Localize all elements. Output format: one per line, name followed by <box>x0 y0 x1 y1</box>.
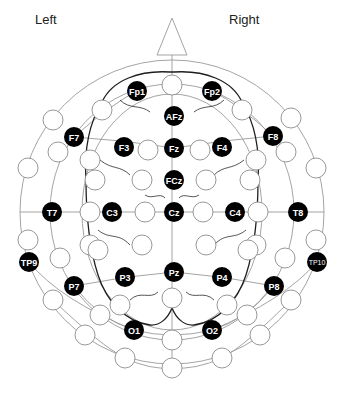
open-electrode-site <box>212 348 232 368</box>
electrode-label: F4 <box>217 143 228 153</box>
electrode-label: Pz <box>169 268 180 278</box>
electrode-f3: F3 <box>114 137 134 157</box>
electrode-label: T7 <box>47 208 58 218</box>
electrode-f4: F4 <box>212 137 232 157</box>
electrode-label: TP10 <box>309 259 326 266</box>
electrode-label: T8 <box>293 208 304 218</box>
electrode-o2: O2 <box>202 320 222 340</box>
electrode-label: F3 <box>119 143 130 153</box>
open-electrode-site <box>50 248 70 268</box>
open-electrode-site <box>162 288 182 308</box>
electrode-t8: T8 <box>288 202 308 222</box>
electrode-tp9: TP9 <box>19 252 39 272</box>
open-electrode-site <box>132 235 152 255</box>
electrode-p7: P7 <box>64 276 84 296</box>
open-electrode-site <box>18 230 38 250</box>
open-electrode-site <box>110 295 130 315</box>
open-electrode-site <box>281 290 301 310</box>
open-electrode-site <box>18 158 38 178</box>
open-electrode-site <box>240 170 260 190</box>
electrode-cz: Cz <box>164 202 184 222</box>
open-electrode-site <box>232 100 252 120</box>
electrode-label: O2 <box>206 326 218 336</box>
open-electrode-site <box>80 150 100 170</box>
open-electrode-site <box>80 202 100 222</box>
electrode-o1: O1 <box>124 320 144 340</box>
electrode-label: TP9 <box>21 258 38 268</box>
open-electrode-site <box>306 158 326 178</box>
electrode-label: C3 <box>106 208 118 218</box>
open-electrode-site <box>306 230 326 250</box>
open-electrode-site <box>196 235 216 255</box>
open-electrode-site <box>250 325 270 345</box>
open-electrode-site <box>85 170 105 190</box>
electrode-fp1: Fp1 <box>127 81 147 101</box>
electrode-label: P7 <box>68 282 79 292</box>
electrode-t7: T7 <box>42 202 62 222</box>
electrode-c4: C4 <box>225 202 245 222</box>
open-electrode-site <box>276 142 296 162</box>
open-electrode-site <box>238 240 258 260</box>
electrode-pz: Pz <box>164 262 184 282</box>
open-electrode-site <box>217 295 237 315</box>
electrode-fcz: FCz <box>164 170 184 190</box>
open-electrode-site <box>162 75 182 95</box>
open-electrode-site <box>275 248 295 268</box>
electrode-p4: P4 <box>212 267 232 287</box>
electrode-label: Fz <box>169 144 179 154</box>
electrode-label: Cz <box>169 208 180 218</box>
open-electrode-site <box>43 110 63 130</box>
electrode-label: Fp2 <box>204 87 220 97</box>
open-electrode-site <box>237 305 257 325</box>
electrode-label: C4 <box>229 208 241 218</box>
open-electrode-site <box>92 100 112 120</box>
electrode-f7: F7 <box>64 127 84 147</box>
open-electrode-site <box>75 325 95 345</box>
electrode-label: O1 <box>128 326 140 336</box>
electrode-label: AFz <box>166 112 183 122</box>
open-electrode-site <box>190 140 210 160</box>
electrode-tp10: TP10 <box>307 252 327 272</box>
electrode-label: FCz <box>166 176 183 186</box>
electrode-p3: P3 <box>115 267 135 287</box>
open-electrode-site <box>132 170 152 190</box>
electrode-label: P3 <box>119 273 130 283</box>
electrode-fz: Fz <box>164 138 184 158</box>
open-electrode-site <box>196 170 216 190</box>
open-electrode-site <box>135 202 155 222</box>
electrode-label: F8 <box>268 132 279 142</box>
open-electrode-site <box>248 202 268 222</box>
open-electrode-site <box>138 140 158 160</box>
open-electrode-site <box>115 348 135 368</box>
open-electrode-site <box>246 150 266 170</box>
open-electrode-site <box>162 330 182 350</box>
electrode-label: Fp1 <box>129 87 145 97</box>
electrode-label: F7 <box>69 133 80 143</box>
open-electrode-site <box>193 202 213 222</box>
eeg-electrode-map: Fp1Fp2AFzF7F3FzF4F8FCzT7C3CzC4T8TP9P7P3P… <box>0 0 345 396</box>
open-electrode-site <box>162 358 182 378</box>
electrode-c3: C3 <box>102 202 122 222</box>
electrode-p8: P8 <box>264 276 284 296</box>
open-electrode-site <box>48 142 68 162</box>
electrode-label: P4 <box>216 273 227 283</box>
nose-indicator <box>157 18 187 55</box>
open-electrode-site <box>88 240 108 260</box>
open-electrode-site <box>43 290 63 310</box>
electrode-fp2: Fp2 <box>202 81 222 101</box>
open-electrode-site <box>281 108 301 128</box>
electrode-afz: AFz <box>164 106 184 126</box>
electrode-label: P8 <box>268 282 279 292</box>
open-electrode-site <box>90 305 110 325</box>
electrode-f8: F8 <box>263 126 283 146</box>
